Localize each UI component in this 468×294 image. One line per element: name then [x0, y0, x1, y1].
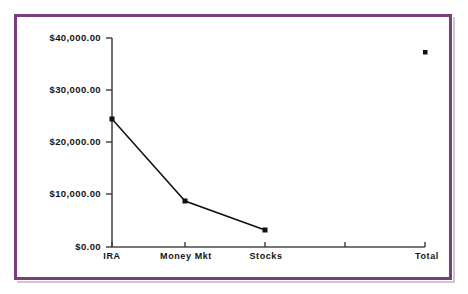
y-tick-label-40000: $40,000.00 [49, 32, 101, 43]
data-point-total [423, 50, 428, 55]
y-tick-label-30000: $30,000.00 [49, 84, 101, 95]
series-line-account-balance [112, 119, 265, 230]
y-tick-label-0: $0.00 [75, 241, 101, 252]
x-tick-label-stocks: Stocks [249, 251, 282, 261]
x-tick-label-ira: IRA [103, 251, 120, 261]
chart-container: $40,000.00 $30,000.00 $20,000.00 $10,000… [0, 0, 468, 294]
data-point-stocks [263, 228, 268, 233]
x-tick-label-total: Total [415, 251, 439, 261]
line-chart-plot: $40,000.00 $30,000.00 $20,000.00 $10,000… [0, 0, 468, 294]
data-point-money-mkt [183, 199, 188, 204]
y-tick-label-20000: $20,000.00 [49, 136, 101, 147]
data-point-ira [110, 117, 115, 122]
x-tick-label-money-mkt: Money Mkt [160, 251, 212, 261]
y-tick-label-10000: $10,000.00 [49, 188, 101, 199]
